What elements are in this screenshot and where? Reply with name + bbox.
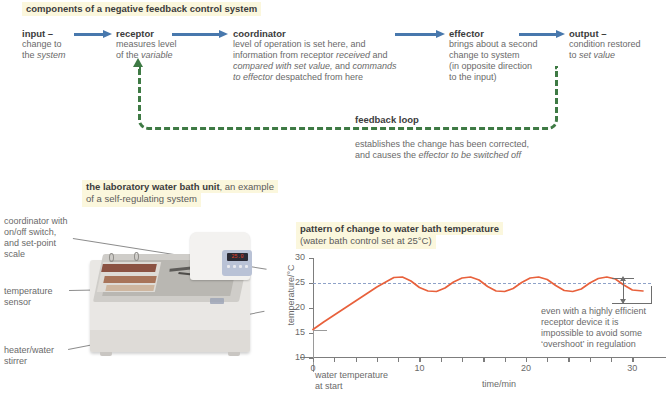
annotation-start-line-1: water temperature (315, 370, 388, 381)
arrow-head (436, 30, 445, 38)
waterbath-foot-left (100, 352, 112, 356)
label-coordinator-line-1: coordinator with (4, 216, 90, 227)
waterbath-clamp-2 (134, 252, 139, 261)
waterbath-front-panel (90, 330, 250, 352)
chart-x-tick (547, 358, 548, 362)
arrow-input-to-receptor (74, 30, 112, 39)
annotation-overshoot-line-4: ‘overshoot’ in regulation (541, 339, 646, 350)
chart-y-tick-label: 30 (283, 252, 305, 262)
chart-x-tick (632, 358, 633, 362)
waterbath-heading: the laboratory water bath unit, an examp… (82, 180, 278, 207)
waterbath-button-2[interactable] (233, 265, 236, 268)
chart-heading: pattern of change to water bath temperat… (296, 222, 503, 249)
overshoot-leader-line (651, 286, 652, 304)
annotation-overshoot: even with a highly efficient receptor de… (541, 306, 646, 350)
arrow-head (219, 30, 228, 38)
feedback-note-line-2: and causes the effector to be switched o… (355, 150, 529, 161)
node-receptor-line-2: of the variable (116, 50, 204, 61)
node-receptor-line-2b: variable (141, 50, 173, 60)
waterbath-clamp-1 (109, 253, 114, 262)
chart-setpoint-line (313, 283, 651, 284)
feedback-loop-label: feedback loop (355, 114, 419, 125)
chart-y-axis-label: temperature/°C (286, 264, 296, 325)
node-input-line-2: the system (22, 50, 92, 61)
node-effector-line-2: change to system (449, 50, 549, 61)
overshoot-tick-top (612, 278, 634, 279)
waterbath-heading-line2-text: of a self-regulating system (82, 193, 201, 207)
chart-x-tick (590, 358, 591, 362)
waterbath-button-1[interactable] (227, 265, 230, 268)
chart-heading-line-2: (water bath control set at 25°C) (296, 235, 503, 249)
annotation-overshoot-line-1: even with a highly efficient (541, 306, 646, 317)
chart-subtitle-text: (water bath control set at 25°C) (296, 235, 436, 249)
feedback-note-line-2a: and causes the (355, 150, 419, 160)
node-coordinator-line-2a: information from receptor (233, 50, 336, 60)
arrow-effector-to-output (519, 30, 565, 39)
node-coordinator-line-2: information from receptor received and (233, 50, 438, 61)
chart-x-tick (505, 358, 506, 362)
chart-x-tick (568, 358, 569, 362)
chart-x-tick (313, 358, 314, 362)
waterbath-foot-right (228, 352, 240, 356)
node-receptor-body: measures level of the variable (116, 39, 204, 61)
node-receptor-line-1: measures level (116, 39, 204, 50)
chart-y-tick (309, 258, 313, 259)
arrow-receptor-to-coordinator (172, 30, 228, 39)
waterbath-heading-line-1: the laboratory water bath unit, an examp… (82, 180, 278, 193)
waterbath-display-value: 25.0 (228, 254, 247, 260)
chart-y-tick (309, 283, 313, 284)
label-sensor-line-1: temperature (4, 286, 90, 297)
waterbath-tube-row-2 (103, 276, 156, 283)
chart-x-tick (419, 358, 420, 362)
node-output: output – condition restored to set value (569, 28, 665, 61)
annotation-overshoot-line-2: receptor device it is (541, 317, 646, 328)
chart-x-tick (526, 358, 527, 362)
waterbath-heading-line-2: of a self-regulating system (82, 193, 278, 207)
arrow-shaft (395, 33, 436, 36)
waterbath-logo (210, 298, 224, 304)
chart-y-tick-label: 25 (283, 277, 305, 287)
arrow-head (103, 30, 112, 38)
label-heater-stirrer: heater/water stirrer (4, 345, 90, 367)
annotation-overshoot-line-3: impossible to avoid some (541, 328, 646, 339)
chart-title-text: pattern of change to water bath temperat… (296, 222, 503, 235)
waterbath-button-4[interactable] (245, 265, 248, 268)
chart-y-tick-label: 15 (283, 327, 305, 337)
chart-x-tick-label: 10 (409, 363, 429, 373)
feedback-note-line-1: establishes the change has been correcte… (355, 139, 529, 150)
arrow-shaft (519, 33, 556, 36)
node-output-line-1: condition restored (569, 39, 665, 50)
overshoot-tick-bottom (612, 303, 652, 304)
feedback-loop-path (138, 66, 558, 130)
diagram-page: components of a negative feedback contro… (0, 0, 669, 402)
arrow-coordinator-to-effector (395, 30, 445, 39)
label-sensor-line-2: sensor (4, 297, 90, 308)
chart-y-tick (309, 333, 313, 334)
label-coordinator-line-4: scale (4, 249, 90, 260)
node-input-line-2a: the (22, 50, 37, 60)
feedback-loop-arrowhead-icon (133, 58, 143, 67)
chart-heading-line-1: pattern of change to water bath temperat… (296, 222, 503, 235)
chart-x-tick (356, 358, 357, 362)
node-effector-line-1: brings about a second (449, 39, 549, 50)
node-input-line-2b: system (37, 50, 66, 60)
label-coordinator-line-2: on/off switch, (4, 227, 90, 238)
chart-x-tick (334, 358, 335, 362)
top-panel-title: components of a negative feedback contro… (22, 2, 261, 16)
chart-x-tick (398, 358, 399, 362)
node-output-line-2: to set value (569, 50, 665, 61)
chart-y-tick-label: 20 (283, 302, 305, 312)
chart-x-tick (462, 358, 463, 362)
node-coordinator-line-2c: and (370, 50, 388, 60)
arrow-shaft (74, 33, 103, 36)
waterbath-photo: 25.0 (86, 222, 286, 374)
waterbath-heading-bold: the laboratory water bath unit (86, 181, 220, 192)
chart-x-tick-label: 20 (516, 363, 536, 373)
node-output-line-2b: set value (579, 50, 615, 60)
node-coordinator-line-1: level of operation is set here, and (233, 39, 438, 50)
node-output-line-2a: to (569, 50, 579, 60)
annotation-start-temperature: water temperature at start (315, 370, 388, 392)
waterbath-button-3[interactable] (239, 265, 242, 268)
annotation-start-line-2: at start (315, 381, 388, 392)
feedback-note-line-2b: effector to be switched off (419, 150, 522, 160)
